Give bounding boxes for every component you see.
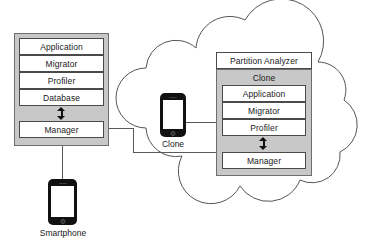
- smartphone-icon[interactable]: [48, 179, 77, 225]
- phone-home-button: [171, 131, 176, 136]
- connector-left-manager-horizontal: [109, 128, 134, 129]
- phone-screen: [163, 100, 183, 129]
- connector-to-right-manager: [133, 152, 217, 153]
- connector-clone-to-profiler: [185, 122, 217, 123]
- phone-speaker: [59, 183, 67, 185]
- left-layer-profiler[interactable]: Profiler: [19, 72, 104, 89]
- clone-phone-label: Clone: [143, 139, 203, 149]
- clone-phone-icon[interactable]: [160, 93, 186, 137]
- connector-drop-vertical: [133, 128, 134, 153]
- right-layer-profiler[interactable]: Profiler: [222, 119, 306, 136]
- phone-speaker: [169, 97, 177, 99]
- left-bidirectional-arrow: [57, 107, 66, 120]
- phone-home-button: [60, 219, 65, 224]
- phone-screen: [51, 186, 74, 217]
- left-layer-database[interactable]: Database: [19, 89, 104, 106]
- right-manager[interactable]: Manager: [222, 152, 306, 169]
- left-layer-migrator[interactable]: Migrator: [19, 55, 104, 72]
- partition-analyzer-header[interactable]: Partition Analyzer: [216, 52, 312, 69]
- architecture-diagram: Application Migrator Profiler Database M…: [0, 0, 365, 245]
- left-manager[interactable]: Manager: [19, 121, 104, 138]
- right-layer-application[interactable]: Application: [222, 85, 306, 102]
- right-layer-migrator[interactable]: Migrator: [222, 102, 306, 119]
- smartphone-label: Smartphone: [24, 228, 102, 238]
- clone-header[interactable]: Clone: [217, 70, 311, 85]
- connector-manager-to-smartphone: [62, 140, 63, 180]
- left-layer-application[interactable]: Application: [19, 38, 104, 55]
- right-bidirectional-arrow: [259, 137, 268, 150]
